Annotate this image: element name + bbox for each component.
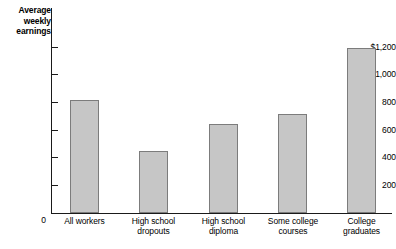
- category-label-line-1: College: [327, 216, 396, 226]
- x-axis-category-label: High schooldropouts: [119, 216, 188, 236]
- x-axis-category-label: Collegegraduates: [327, 216, 396, 236]
- category-label-line-1: High school: [189, 216, 258, 226]
- category-label-line-2: dropouts: [119, 226, 188, 236]
- category-label-line-1: All workers: [50, 216, 119, 226]
- y-axis-tick-mark: [52, 157, 58, 158]
- y-axis-title-line-3: earnings: [0, 26, 51, 37]
- category-label-line-1: Some college: [257, 216, 329, 226]
- y-axis-zero-label: 0: [0, 215, 46, 225]
- bar: [139, 151, 168, 213]
- bar: [278, 114, 307, 214]
- x-axis-category-label: High schooldiploma: [189, 216, 258, 236]
- category-label-line-2: graduates: [327, 226, 396, 236]
- y-axis-tick-mark: [52, 74, 58, 75]
- x-axis-category-label: Some collegecourses: [257, 216, 329, 236]
- category-label-line-2: diploma: [189, 226, 258, 236]
- y-axis-title-line-1: Average: [0, 5, 51, 16]
- y-axis-tick-mark: [52, 102, 58, 103]
- bar: [347, 48, 376, 213]
- category-label-line-2: courses: [257, 226, 329, 236]
- y-axis-line: [51, 8, 52, 214]
- y-axis-title: Average weekly earnings: [0, 5, 51, 37]
- y-axis-tick-mark: [52, 185, 58, 186]
- y-axis-title-line-2: weekly: [0, 16, 51, 27]
- bar: [70, 100, 99, 214]
- bar-chart: Average weekly earnings $1,2001,00080060…: [0, 0, 396, 249]
- x-axis-category-label: All workers: [50, 216, 119, 226]
- y-axis-tick-mark: [52, 47, 58, 48]
- y-axis-tick-mark: [52, 130, 58, 131]
- bar: [209, 124, 238, 213]
- category-label-line-1: High school: [119, 216, 188, 226]
